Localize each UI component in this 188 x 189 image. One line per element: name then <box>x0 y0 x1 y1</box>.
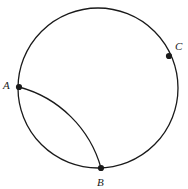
geometry-figure: A C B <box>0 0 188 189</box>
point-b-label: B <box>97 177 104 188</box>
point-a-marker <box>16 84 22 90</box>
point-c-marker <box>166 53 172 59</box>
main-circle <box>18 8 178 168</box>
inner-arc-ab <box>19 87 101 168</box>
point-a-label: A <box>3 80 10 91</box>
point-b-marker <box>98 165 104 171</box>
geometry-canvas <box>0 0 188 189</box>
point-c-label: C <box>175 41 182 52</box>
